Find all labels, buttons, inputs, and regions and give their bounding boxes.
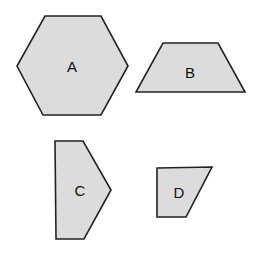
shape-b: B bbox=[136, 43, 245, 92]
shape-d: D bbox=[157, 167, 212, 217]
quadrilateral-d bbox=[157, 167, 212, 217]
label-d: D bbox=[174, 184, 185, 201]
shape-c: C bbox=[55, 141, 111, 239]
label-c: C bbox=[75, 182, 86, 199]
label-b: B bbox=[185, 64, 195, 81]
shapes-diagram: A B C D bbox=[0, 0, 254, 257]
shape-a: A bbox=[17, 16, 128, 115]
label-a: A bbox=[67, 58, 77, 75]
